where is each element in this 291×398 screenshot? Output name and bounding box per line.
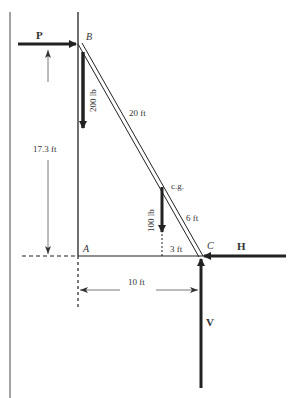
length-6ft-label: 6 ft (186, 213, 199, 223)
ladder-diagram: P B 200 lb 20 ft 17.3 ft c.g. 100 lb 6 f… (0, 0, 291, 398)
ladder (78, 43, 203, 257)
force-V-label: V (206, 316, 214, 328)
cg-label: c.g. (171, 181, 184, 191)
length-20ft-label: 20 ft (129, 108, 146, 118)
horizontal-3ft-label: 3 ft (170, 244, 183, 254)
point-C-label: C (207, 240, 214, 251)
force-H-label: H (237, 240, 246, 252)
point-B-label: B (86, 31, 92, 42)
height-17-3ft-label: 17.3 ft (33, 144, 57, 154)
point-A-label: A (82, 243, 90, 254)
force-P-label: P (36, 29, 43, 41)
weight-100-label: 100 lb (146, 209, 156, 232)
base-10ft-label: 10 ft (128, 277, 145, 287)
weight-200-label: 200 lb (88, 89, 98, 112)
